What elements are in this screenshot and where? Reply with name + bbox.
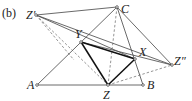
segment-Zp-Zpp-upper [36, 15, 172, 65]
segment-Zp-C [36, 7, 117, 15]
bold-Y-X [81, 42, 135, 59]
label-Y: Y [75, 28, 82, 40]
point-B [142, 84, 145, 87]
geometry-figure: (b) Z′ C Y X Z″ A Z B [0, 0, 192, 101]
figure-tag: (b) [2, 7, 16, 19]
point-Y [80, 41, 83, 44]
label-Zpp: Z″ [174, 55, 186, 67]
point-C [116, 6, 119, 9]
label-Zp: Z′ [26, 9, 35, 21]
label-A: A [27, 79, 34, 91]
point-A [36, 84, 39, 87]
dashed-C-Z [108, 7, 117, 85]
dashed-Zp-Z [36, 15, 108, 85]
segment-Y-Zpp [81, 42, 172, 65]
label-X: X [139, 46, 146, 58]
point-X [134, 58, 137, 61]
point-Zpp [171, 64, 174, 67]
label-Z: Z [103, 89, 110, 101]
segment-Zp-Zpp-lower [36, 15, 135, 59]
label-C: C [121, 3, 129, 15]
point-Z [107, 84, 110, 87]
label-B: B [147, 79, 154, 91]
